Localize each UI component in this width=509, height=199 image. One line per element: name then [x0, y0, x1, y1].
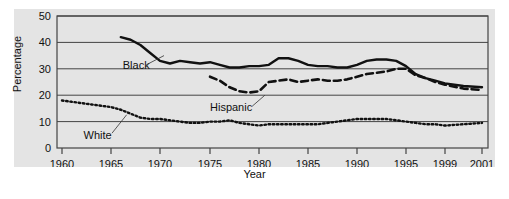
x-tick-label: 1990	[345, 158, 369, 167]
chart-panel: 0102030405019601965197019751980198519901…	[14, 9, 495, 167]
x-tick-label: 1960	[50, 158, 74, 167]
x-tick-label: 2001	[470, 158, 494, 167]
x-tick-label: 1995	[394, 158, 418, 167]
y-tick-label: 10	[39, 116, 51, 128]
y-tick-label: 0	[45, 142, 51, 154]
leader-line	[112, 115, 127, 133]
x-tick-label: 1975	[198, 158, 222, 167]
leader-line	[252, 95, 265, 106]
figure-container: 0102030405019601965197019751980198519901…	[0, 0, 509, 199]
series-label-black: Black	[123, 59, 150, 71]
y-axis-title: Percentage	[11, 29, 23, 99]
x-tick-label: 1970	[148, 158, 172, 167]
series-label-hispanic: Hispanic	[210, 101, 253, 113]
y-tick-label: 20	[39, 89, 51, 101]
line-chart: 0102030405019601965197019751980198519901…	[14, 9, 495, 167]
x-tick-label: 1985	[296, 158, 320, 167]
series-label-white: White	[84, 129, 112, 141]
x-axis-title: Year	[0, 168, 509, 180]
x-tick-label: 1999	[433, 158, 457, 167]
x-tick-label: 1965	[99, 158, 123, 167]
series-hispanic	[210, 69, 482, 93]
y-tick-label: 40	[39, 36, 51, 48]
y-tick-label: 50	[39, 10, 51, 22]
y-tick-label: 30	[39, 63, 51, 75]
x-tick-label: 1980	[247, 158, 271, 167]
